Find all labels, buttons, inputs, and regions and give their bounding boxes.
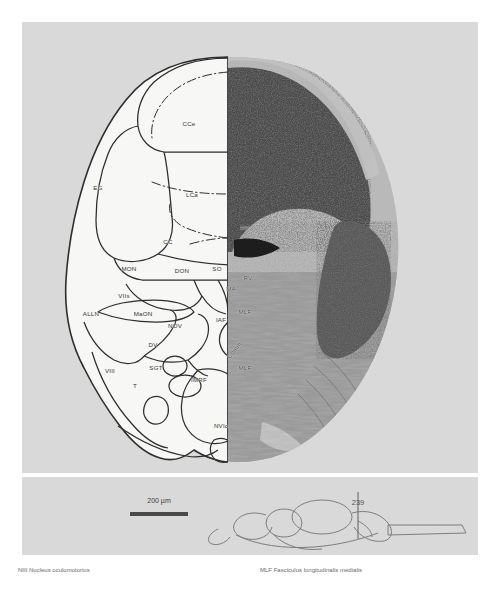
region-label-rv-8: RV: [244, 274, 253, 281]
region-label-ma-9: MA: [226, 285, 236, 292]
region-label-imrf-20: IMRF: [191, 376, 207, 383]
region-label-viis-12: VIIs: [118, 292, 129, 299]
region-label-nov-15: NOV: [168, 322, 182, 329]
region-label-mon-5: MON: [121, 265, 136, 272]
brain-section-illustration: [22, 22, 478, 473]
caption-column-left: NIII Nucleus oculomotorius: [18, 566, 246, 575]
region-label-dv-16: DV: [149, 341, 158, 348]
figure-container: CCeEGLCaCCRVMONDONSORVMAMLFIAFVIIsALLNMa…: [0, 0, 500, 598]
region-label-sgt-17: SGT: [149, 364, 162, 371]
scale-bar: [130, 512, 188, 516]
region-label-lca-2: LCa: [186, 191, 198, 198]
region-label-iaf-11: IAF: [216, 316, 226, 323]
region-label-don-6: DON: [175, 267, 189, 274]
scale-bar-label: 200 µm: [147, 497, 171, 504]
section-number-label: 239: [352, 498, 365, 507]
figure-caption: NIII Nucleus oculomotorius MLF Fasciculu…: [18, 566, 488, 575]
region-label-mlf-22: MLF: [239, 364, 252, 371]
region-label-maon-14: MaON: [134, 310, 153, 317]
caption-column-right: MLF Fasciculus longitudinalis medialis: [260, 566, 488, 575]
region-label-cc-3: CC: [163, 238, 172, 245]
region-label-cce-0: CCe: [183, 120, 196, 127]
region-label-nvic-23: NVIc: [214, 422, 228, 429]
region-label-viii-18: VIII: [105, 367, 115, 374]
region-label-rv-4: RV: [241, 224, 250, 231]
region-label-t-19: T: [133, 382, 137, 389]
region-label-so-7: SO: [212, 265, 221, 272]
region-label-mlf-10: MLF: [239, 308, 252, 315]
photomicrograph-half: [222, 42, 478, 473]
lateral-brain-inset-diagram: [22, 477, 478, 555]
region-label-eg-1: EG: [93, 184, 102, 191]
region-label-alln-13: ALLN: [83, 310, 99, 317]
